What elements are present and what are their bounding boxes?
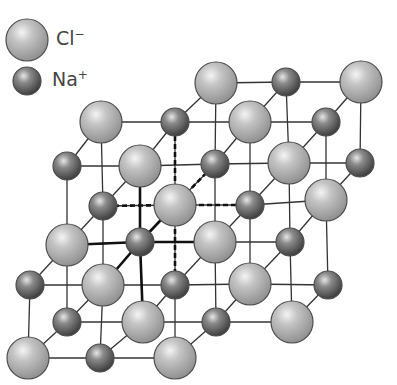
nacl-crystal-lattice — [0, 0, 397, 385]
chloride-symbol: Cl — [56, 27, 75, 49]
legend — [6, 19, 48, 95]
chloride-ion — [305, 179, 347, 221]
sodium-ion — [201, 150, 229, 178]
sodium-ion — [161, 108, 189, 136]
chloride-ion — [7, 337, 49, 379]
chloride-ion — [80, 101, 122, 143]
sodium-ion — [16, 271, 44, 299]
sodium-ion — [272, 68, 300, 96]
chloride-ion — [119, 145, 161, 187]
sodium-ion — [53, 308, 81, 336]
sodium-ion — [276, 228, 304, 256]
sodium-symbol: Na — [52, 68, 78, 90]
chloride-ion — [122, 301, 164, 343]
sodium-ion — [314, 271, 342, 299]
chloride-ion — [154, 337, 196, 379]
chloride-ion — [229, 263, 271, 305]
sodium-ion — [86, 344, 114, 372]
sodium-charge: + — [78, 68, 88, 82]
ions — [7, 61, 382, 379]
sodium-ion — [202, 308, 230, 336]
legend-label-chloride: Cl− — [56, 27, 85, 49]
sodium-ion — [236, 191, 264, 219]
chloride-ion — [268, 142, 310, 184]
chloride-charge: − — [75, 27, 85, 41]
legend-label-sodium: Na+ — [52, 68, 88, 90]
sodium-ion — [53, 152, 81, 180]
chloride-ion — [340, 61, 382, 103]
chloride-ion — [194, 221, 236, 263]
legend-chloride-sphere — [6, 19, 48, 61]
chloride-ion — [229, 101, 271, 143]
sodium-ion — [89, 192, 117, 220]
chloride-ion — [195, 62, 237, 104]
chloride-ion — [271, 301, 313, 343]
chloride-ion — [82, 264, 124, 306]
legend-sodium-sphere — [13, 67, 41, 95]
chloride-ion — [154, 184, 196, 226]
sodium-ion — [161, 271, 189, 299]
sodium-ion — [126, 228, 154, 256]
sodium-ion — [346, 149, 374, 177]
sodium-ion — [312, 108, 340, 136]
chloride-ion — [46, 224, 88, 266]
